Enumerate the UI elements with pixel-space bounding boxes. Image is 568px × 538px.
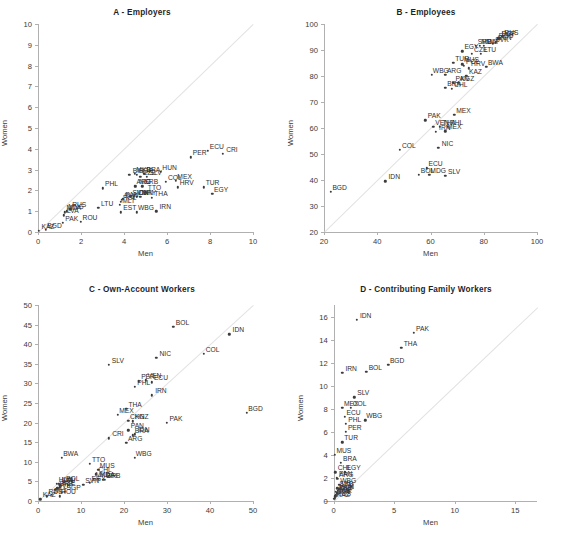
data-point-label: BGD — [248, 405, 263, 412]
x-tick-label: 40 — [365, 237, 389, 246]
y-axis-line — [324, 24, 325, 232]
data-point-label: SLV — [448, 169, 460, 176]
x-tick — [124, 232, 125, 235]
data-point-label: PHL — [450, 119, 463, 126]
y-tick — [35, 86, 38, 87]
data-point-label: LTU — [484, 47, 496, 54]
data-point — [461, 50, 463, 52]
x-tick — [455, 501, 456, 504]
data-point — [202, 186, 204, 188]
y-tick-label: 0 — [10, 497, 32, 506]
data-point — [134, 385, 136, 387]
data-point — [166, 421, 168, 423]
data-point — [155, 357, 157, 359]
x-tick-label: 6 — [155, 237, 179, 246]
data-point — [341, 441, 343, 443]
y-tick — [35, 211, 38, 212]
panel-b-title: B - Employees — [284, 8, 568, 17]
data-point-label: ECU — [154, 375, 168, 382]
data-point-label: IDN — [388, 174, 400, 181]
data-point-label: KGZ — [461, 75, 475, 82]
data-point-label: ECU — [210, 144, 224, 151]
x-tick — [334, 501, 335, 504]
data-point — [101, 187, 103, 189]
data-point-label: SGP — [502, 31, 516, 38]
data-point-label: IRN — [345, 366, 357, 373]
y-tick-label: 5 — [10, 477, 32, 486]
data-point-label: PHL — [105, 181, 118, 188]
data-point-label: PHL — [348, 416, 361, 423]
x-tick — [515, 501, 516, 504]
data-point-label: SLV — [357, 390, 369, 397]
y-tick-label: 45 — [10, 320, 32, 329]
x-axis-line — [38, 501, 253, 502]
y-tick — [35, 107, 38, 108]
x-axis-label: Men — [324, 518, 537, 527]
x-tick — [253, 232, 254, 235]
data-point — [128, 174, 130, 176]
data-point-label: COL — [206, 347, 220, 354]
x-tick-label: 0 — [322, 506, 346, 515]
data-point-label: PAN — [339, 471, 352, 478]
x-tick — [484, 232, 485, 235]
y-tick-label: 8 — [306, 404, 328, 413]
data-point — [189, 156, 191, 158]
y-tick — [35, 190, 38, 191]
y-tick — [35, 344, 38, 345]
y-tick-label: 1 — [10, 207, 32, 216]
x-tick — [210, 501, 211, 504]
data-point — [341, 372, 343, 374]
y-tick — [321, 128, 324, 129]
y-tick — [321, 180, 324, 181]
y-tick-label: 15 — [10, 438, 32, 447]
data-point — [172, 325, 174, 327]
diagonal-reference-line — [38, 24, 254, 233]
x-tick-label: 0 — [26, 506, 50, 515]
data-point — [353, 396, 355, 398]
data-point — [82, 483, 84, 485]
diagonal-reference-line — [324, 24, 538, 233]
data-point-label: COL — [402, 143, 416, 150]
y-tick-label: 30 — [296, 202, 318, 211]
y-tick — [35, 423, 38, 424]
y-tick-label: 9 — [10, 40, 32, 49]
y-tick-label: 35 — [10, 359, 32, 368]
x-tick-label: 20 — [112, 506, 136, 515]
panel-b-plot: 203040506070809010020406080100MenWomenBG… — [324, 24, 537, 232]
y-tick — [321, 50, 324, 51]
y-tick-label: 60 — [296, 124, 318, 133]
data-point-label: SLV — [112, 357, 124, 364]
y-axis-label: Women — [0, 395, 9, 421]
y-tick-label: 90 — [296, 46, 318, 55]
data-point-label: IDN — [360, 313, 372, 320]
y-tick — [35, 442, 38, 443]
y-tick — [35, 462, 38, 463]
y-tick — [35, 66, 38, 67]
y-axis-line — [38, 24, 39, 232]
y-tick-label: 100 — [296, 20, 318, 29]
x-tick-label: 100 — [525, 237, 549, 246]
y-tick-label: 80 — [296, 72, 318, 81]
figure-grid: A - Employers 0123456789100246810MenWome… — [0, 0, 568, 538]
y-tick-label: 40 — [296, 176, 318, 185]
y-tick — [35, 481, 38, 482]
x-axis-line — [324, 501, 537, 502]
y-tick — [35, 45, 38, 46]
x-tick — [167, 232, 168, 235]
data-point-label: BOL — [369, 365, 382, 372]
data-point — [444, 86, 446, 88]
x-tick — [394, 501, 395, 504]
x-tick-label: 60 — [419, 237, 443, 246]
y-tick — [35, 403, 38, 404]
diagonal-reference-line — [38, 305, 254, 502]
x-tick — [210, 232, 211, 235]
data-point — [343, 416, 345, 418]
data-point-label: WBG — [340, 477, 356, 484]
panel-a-plot: 0123456789100246810MenWomenKAZBGDPAKLVAM… — [38, 24, 253, 232]
data-point-label: PAK — [428, 113, 441, 120]
y-tick-label: 10 — [10, 20, 32, 29]
data-point-label: SRB — [107, 472, 121, 479]
y-tick-label: 20 — [296, 228, 318, 237]
data-point — [437, 146, 439, 148]
data-point — [151, 196, 153, 198]
